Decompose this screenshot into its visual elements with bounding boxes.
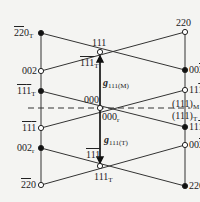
label-002: 002 <box>22 66 37 76</box>
label-111-top: 111 <box>92 38 106 48</box>
label-111-bar: 111 <box>22 123 36 133</box>
label-111T-bottom: 111T <box>94 172 113 184</box>
label-111T-bar-last: 111T <box>189 122 200 134</box>
label-111T-bar: 111T <box>17 86 36 98</box>
label-111-bottom-bar: 111 <box>86 150 100 160</box>
label-220: 220 <box>176 18 191 28</box>
label-002-bar-last: 002 <box>189 140 200 150</box>
label-220T: 220T <box>189 181 200 193</box>
diffraction-diagram: 220T 002 111T 111 002r 220 220 002T 111 … <box>0 0 200 202</box>
label-220-bar: 220 <box>21 180 36 190</box>
label-000: 000 <box>84 95 99 105</box>
label-111-bar-last: 111 <box>189 85 200 95</box>
label-002T-bar: 002T <box>189 65 200 77</box>
g-vector-111T: g111(T) <box>104 135 128 147</box>
g-vector-111M: g111(M) <box>103 78 129 90</box>
label-111T-top-bar: 111T <box>80 58 99 70</box>
label-220T-bar: 220T <box>14 28 33 40</box>
label-002r: 002r <box>17 143 34 155</box>
label-000r: 000r <box>102 112 119 124</box>
